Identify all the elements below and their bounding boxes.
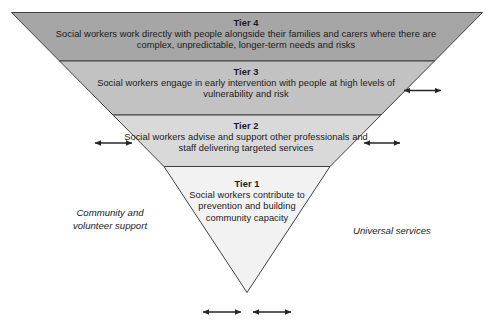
tier3-label: Tier 3 Social workers engage in early in… — [85, 67, 407, 100]
tier4-title: Tier 4 — [40, 18, 452, 29]
tier1-label: Tier 1 Social workers contribute to prev… — [176, 179, 318, 224]
tier1-body: Social workers contribute to prevention … — [176, 190, 318, 224]
tier2-body: Social workers advise and support other … — [118, 132, 374, 154]
tier4-body: Social workers work directly with people… — [40, 29, 452, 51]
tier1-title: Tier 1 — [176, 179, 318, 190]
left-side-label: Community and volunteer support — [58, 206, 162, 232]
right-side-label: Universal services — [336, 224, 448, 237]
tier3-title: Tier 3 — [85, 67, 407, 78]
tier2-title: Tier 2 — [118, 121, 374, 132]
tier2-label: Tier 2 Social workers advise and support… — [118, 121, 374, 154]
tier3-body: Social workers engage in early intervent… — [85, 78, 407, 100]
tier4-label: Tier 4 Social workers work directly with… — [40, 18, 452, 51]
tiered-pyramid-diagram: Tier 4 Social workers work directly with… — [0, 0, 491, 325]
